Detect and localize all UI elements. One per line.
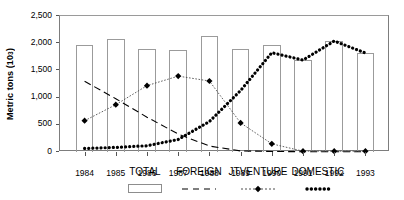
jtventure-marker-1990 <box>269 141 275 147</box>
line-jtventure <box>85 76 366 151</box>
jtventure-marker-1989 <box>238 120 244 126</box>
jtventure-marker-1987 <box>175 73 181 79</box>
x-axis-tick-mark <box>365 152 366 156</box>
legend-labels: TOTALFOREIGNJTVENTUREDOMESTIC <box>0 166 404 179</box>
legend-symbol-total <box>122 182 168 196</box>
chart-figure: Metric tons (103) 05001,0001,5002,0002,5… <box>0 0 404 200</box>
line-foreign <box>85 81 366 151</box>
y-axis-tick-label: 1,500 <box>8 65 52 74</box>
y-axis-title-exponent: 3 <box>7 51 14 55</box>
legend-label-domestic: DOMESTIC <box>273 166 363 178</box>
legend-swatch-line <box>295 182 341 196</box>
plot-area: 1984198519861987198819891990199119921993 <box>59 15 389 151</box>
x-axis-tick-mark <box>334 152 335 156</box>
jtventure-marker-1984 <box>82 118 88 124</box>
legend-swatch-line <box>235 182 281 196</box>
y-axis-tick-label: 1,000 <box>8 92 52 101</box>
jtventure-markers <box>82 73 369 154</box>
legend-symbol-domestic <box>295 182 341 196</box>
legend-swatch-open-rect <box>128 184 162 193</box>
x-axis-tick-mark <box>116 152 117 156</box>
line-series-overlay <box>60 16 390 152</box>
chart-legend: TOTALFOREIGNJTVENTUREDOMESTIC <box>0 166 404 200</box>
y-axis-tick-label: 2,500 <box>8 11 52 20</box>
y-axis-title-paren: ) <box>5 48 15 51</box>
legend-symbol-foreign <box>176 182 222 196</box>
jtventure-marker-1988 <box>206 78 212 84</box>
y-axis-tick-mark <box>56 151 59 152</box>
x-axis-tick-mark <box>147 152 148 156</box>
x-axis-tick-mark <box>85 152 86 156</box>
x-axis-tick-mark <box>303 152 304 156</box>
plot-inner <box>60 16 388 150</box>
line-domestic <box>85 41 366 148</box>
y-axis-tick-label: 500 <box>8 119 52 128</box>
legend-symbol-jtventure <box>235 182 281 196</box>
x-axis-tick-mark <box>209 152 210 156</box>
legend-swatch-line <box>176 182 222 196</box>
x-axis-tick-mark <box>178 152 179 156</box>
x-axis-tick-mark <box>272 152 273 156</box>
legend-diamond-marker <box>255 186 261 192</box>
y-axis-tick-label: 2,000 <box>8 38 52 47</box>
x-axis-tick-mark <box>241 152 242 156</box>
jtventure-marker-1985 <box>113 102 119 108</box>
y-axis-tick-label: 0 <box>8 147 52 156</box>
jtventure-marker-1986 <box>144 83 150 89</box>
